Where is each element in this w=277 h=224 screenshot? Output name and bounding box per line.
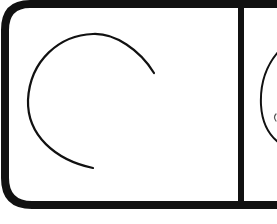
left-panel: [28, 34, 154, 168]
partial-arc-icon: [261, 52, 277, 142]
outer-frame: [5, 4, 277, 205]
right-panel: [261, 52, 277, 142]
c-arc-icon: [28, 34, 154, 168]
panel-figure: [0, 0, 277, 224]
small-mark-icon: [275, 114, 277, 121]
